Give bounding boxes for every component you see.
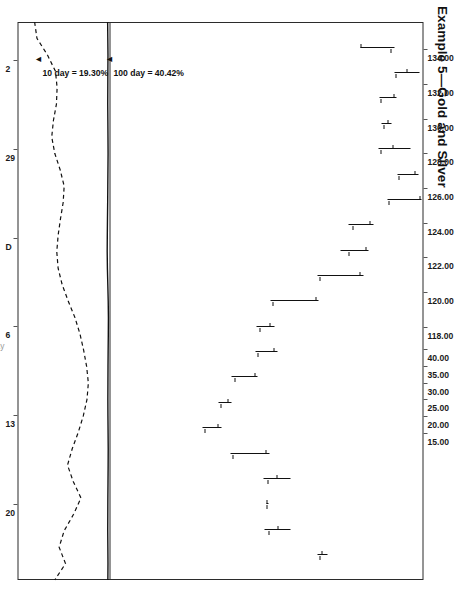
- x-axis-caption: Day: [0, 341, 4, 351]
- ten-day-volatility-label: 10 day = 19.30%: [42, 68, 108, 78]
- hundred-day-volatility-arrow: ▼: [104, 55, 113, 64]
- ten-day-volatility-arrow: ▼: [33, 55, 42, 64]
- volatility-line-10-day: [34, 22, 88, 580]
- rotated-figure-canvas: Example 5—Gold and Silver 134.00132.0013…: [0, 0, 455, 598]
- volatility-line-100-day: [107, 22, 108, 580]
- hundred-day-volatility-label: 100 day = 40.42%: [113, 68, 183, 78]
- scanned-figure-page: Example 5—Gold and Silver 134.00132.0013…: [0, 0, 455, 598]
- volatility-svg: [0, 0, 455, 598]
